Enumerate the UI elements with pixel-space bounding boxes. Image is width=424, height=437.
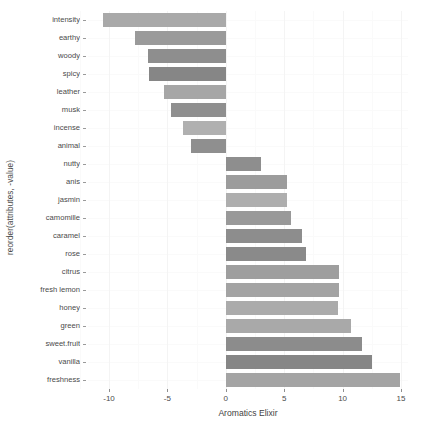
y-axis-tick-label: rose: [65, 245, 80, 264]
y-axis-tick-label: earthy: [59, 29, 80, 48]
y-axis-tick-mark: [82, 371, 86, 390]
y-axis-tick-mark: [82, 209, 86, 228]
y-axis-tick-label: incense: [54, 119, 80, 138]
y-axis-tick-label: freshness: [47, 371, 80, 390]
grid-line-horizontal: [88, 146, 408, 147]
x-axis-tick-label: 10: [338, 394, 347, 403]
x-axis-tick-mark: [284, 389, 285, 392]
grid-line-vertical-major: [401, 11, 402, 389]
y-axis-tick-label: caramel: [53, 227, 80, 246]
y-axis-tick-label: animal: [58, 137, 80, 156]
y-axis-tick-mark: [82, 173, 86, 192]
y-axis-tick-mark: [82, 263, 86, 282]
x-axis-title: Aromatics Elixir: [88, 408, 408, 418]
y-axis-tick-mark: [82, 29, 86, 48]
bar: [103, 13, 226, 27]
y-axis-tick-mark: [82, 47, 86, 66]
bar: [226, 229, 302, 243]
y-axis-tick-mark: [82, 137, 86, 156]
bar: [164, 85, 226, 99]
y-axis-tick-label: jasmin: [58, 191, 80, 210]
y-axis-tick-mark: [82, 227, 86, 246]
bar: [226, 319, 351, 333]
x-axis-tick-label: 0: [224, 394, 228, 403]
y-axis-tick-mark: [82, 155, 86, 174]
bar: [226, 157, 261, 171]
y-axis-tick-label: camomille: [46, 209, 80, 228]
bar: [183, 121, 226, 135]
x-axis-tick-label: -5: [164, 394, 171, 403]
x-axis-tick-mark: [167, 389, 168, 392]
grid-line-vertical-minor: [372, 11, 373, 389]
grid-line-horizontal: [88, 110, 408, 111]
y-axis-tick-labels: intensityearthywoodyspicyleathermuskince…: [22, 11, 86, 389]
y-axis-title: reorder(attributes, -value): [0, 0, 22, 437]
y-axis-tick-label: honey: [59, 299, 80, 318]
x-axis-tick-mark: [343, 389, 344, 392]
y-axis-tick-mark: [82, 317, 86, 336]
y-axis-tick-mark: [82, 83, 86, 102]
bar: [226, 337, 363, 351]
grid-line-horizontal: [88, 74, 408, 75]
x-axis-tick-mark: [401, 389, 402, 392]
bar: [191, 139, 226, 153]
y-axis-tick-label: musk: [62, 101, 80, 120]
x-axis-tick-label: 5: [282, 394, 286, 403]
y-axis-tick-label: anis: [66, 173, 80, 192]
bar: [226, 211, 291, 225]
y-axis-tick-label: green: [61, 317, 80, 336]
plot-panel: [88, 11, 408, 389]
bar: [149, 67, 226, 81]
x-axis-tick-mark: [226, 389, 227, 392]
x-axis-tick-label: -10: [103, 394, 115, 403]
grid-line-horizontal: [88, 128, 408, 129]
y-axis-tick-label: spicy: [63, 65, 80, 84]
y-axis-tick-label: intensity: [52, 11, 80, 30]
grid-line-vertical-minor: [138, 11, 139, 389]
y-axis-tick-label: fresh lemon: [40, 281, 80, 300]
y-axis-tick-mark: [82, 191, 86, 210]
y-axis-tick-mark: [82, 11, 86, 30]
y-axis-tick-mark: [82, 101, 86, 120]
y-axis-title-label: reorder(attributes, -value): [6, 58, 15, 358]
bar-chart: reorder(attributes, -value) intensityear…: [0, 0, 424, 437]
bar: [226, 283, 339, 297]
grid-line-horizontal: [88, 56, 408, 57]
y-axis-tick-mark: [82, 281, 86, 300]
y-axis-tick-mark: [82, 245, 86, 264]
bar: [171, 103, 226, 117]
bar: [226, 193, 287, 207]
bar: [226, 175, 287, 189]
y-axis-tick-label: sweet.fruit: [45, 335, 80, 354]
y-axis-tick-label: woody: [58, 47, 80, 66]
grid-line-horizontal: [88, 92, 408, 93]
y-axis-tick-mark: [82, 119, 86, 138]
bar: [226, 373, 400, 387]
bar: [226, 355, 372, 369]
y-axis-tick-label: leather: [57, 83, 80, 102]
x-axis-tick-mark: [109, 389, 110, 392]
x-axis-tick-label: 15: [397, 394, 406, 403]
grid-line-vertical-major: [109, 11, 110, 389]
grid-line-vertical-minor: [80, 11, 81, 389]
bar: [148, 49, 226, 63]
y-axis-tick-mark: [82, 65, 86, 84]
bar: [135, 31, 226, 45]
y-axis-tick-mark: [82, 353, 86, 372]
y-axis-tick-mark: [82, 335, 86, 354]
bar: [226, 247, 307, 261]
y-axis-tick-label: nutty: [64, 155, 80, 174]
bar: [226, 265, 339, 279]
bar: [226, 301, 338, 315]
y-axis-tick-mark: [82, 299, 86, 318]
y-axis-tick-label: citrus: [62, 263, 80, 282]
y-axis-tick-label: vanilla: [58, 353, 80, 372]
